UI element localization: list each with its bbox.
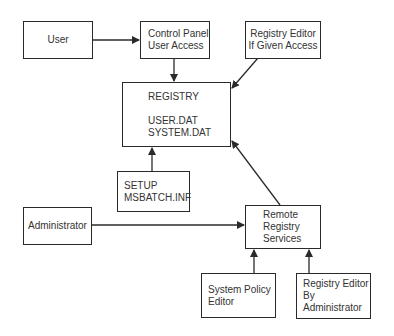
node-control-panel: Control Panel User Access bbox=[140, 21, 210, 59]
node-remote-registry-line1: Remote bbox=[263, 209, 320, 221]
node-control-panel-line1: Control Panel bbox=[148, 28, 209, 40]
node-system-policy-line2: Editor bbox=[208, 296, 275, 308]
node-system-policy-editor: System Policy Editor bbox=[201, 273, 276, 318]
node-registry-editor-given-line2: If Given Access bbox=[249, 40, 318, 52]
node-remote-registry-line2: Registry bbox=[263, 221, 320, 233]
node-registry-editor-if-given-access: Registry Editor If Given Access bbox=[245, 21, 321, 59]
node-registry-editor-admin-line1: Registry Editor bbox=[303, 278, 370, 290]
node-administrator-label: Administrator bbox=[28, 220, 87, 232]
node-setup-line2: MSBATCH.INF bbox=[124, 192, 189, 204]
node-user-label: User bbox=[47, 34, 68, 46]
node-control-panel-line2: User Access bbox=[148, 40, 209, 52]
node-registry-title: REGISTRY bbox=[148, 91, 230, 103]
node-registry-system-dat: SYSTEM.DAT bbox=[148, 127, 230, 139]
node-registry-editor-admin-line3: Administrator bbox=[303, 302, 370, 314]
node-remote-registry-services: Remote Registry Services bbox=[245, 205, 321, 249]
node-registry-editor-by-administrator: Registry Editor By Administrator bbox=[296, 273, 371, 319]
node-user: User bbox=[23, 21, 93, 59]
node-system-policy-line1: System Policy bbox=[208, 284, 275, 296]
node-registry-editor-admin-line2: By bbox=[303, 290, 370, 302]
node-remote-registry-line3: Services bbox=[263, 233, 320, 245]
node-registry-user-dat: USER.DAT bbox=[148, 115, 230, 127]
arrow-registry-editor-to-registry bbox=[232, 58, 258, 88]
node-setup-line1: SETUP bbox=[124, 180, 189, 192]
arrow-remote-registry-to-registry bbox=[232, 141, 280, 205]
node-setup-msbatch: SETUP MSBATCH.INF bbox=[117, 171, 190, 212]
node-administrator: Administrator bbox=[23, 207, 92, 245]
node-registry: REGISTRY USER.DAT SYSTEM.DAT bbox=[122, 82, 231, 147]
node-registry-editor-given-line1: Registry Editor bbox=[250, 28, 316, 40]
registry-access-diagram: User Control Panel User Access Registry … bbox=[0, 0, 394, 336]
